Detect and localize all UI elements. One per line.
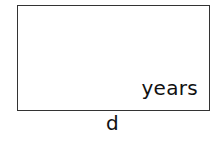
caption-label: d [106,113,119,133]
box-label: years [141,78,198,98]
diagram-box: years [17,5,210,111]
